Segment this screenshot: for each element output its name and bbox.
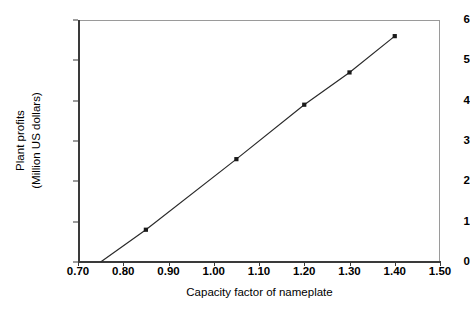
x-tick-mark — [259, 262, 260, 266]
y-tick-label: 4 — [400, 95, 470, 107]
y-axis-title-line2: (Million US dollars) — [28, 93, 44, 190]
x-tick-mark — [440, 262, 441, 266]
x-axis-title: Capacity factor of nameplate — [78, 286, 441, 298]
y-axis-title: Plant profits (Million US dollars) — [0, 0, 56, 282]
x-tick-mark — [78, 262, 79, 266]
x-tick-mark — [169, 262, 170, 266]
y-axis-line — [78, 20, 80, 263]
y-tick-label: 2 — [400, 176, 470, 188]
y-tick-mark — [73, 221, 78, 222]
y-tick-label: 3 — [400, 135, 470, 147]
x-tick-mark — [395, 262, 396, 266]
y-tick-mark — [73, 100, 78, 101]
y-tick-label: 5 — [400, 55, 470, 67]
x-tick-label: 1.50 — [410, 266, 470, 278]
x-tick-mark — [123, 262, 124, 266]
chart-container: Plant profits (Million US dollars) 01234… — [0, 0, 470, 314]
x-tick-mark — [214, 262, 215, 266]
y-tick-label: 1 — [400, 216, 470, 228]
x-tick-mark — [350, 262, 351, 266]
y-tick-mark — [73, 60, 78, 61]
y-tick-mark — [73, 141, 78, 142]
y-axis-title-line1: Plant profits — [12, 93, 28, 190]
x-tick-mark — [304, 262, 305, 266]
y-tick-mark — [73, 181, 78, 182]
plot-area — [78, 20, 440, 262]
y-tick-mark — [73, 20, 78, 21]
y-tick-label: 6 — [400, 14, 470, 26]
